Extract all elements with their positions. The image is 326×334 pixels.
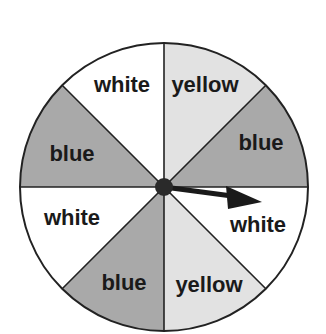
spinner: yellow blue white yellow blue white blue… (0, 0, 326, 334)
label-white-top: white (93, 72, 150, 97)
label-white-right: white (229, 212, 286, 237)
label-blue-left: blue (49, 141, 94, 166)
spinner-hub (155, 178, 173, 196)
label-white-left: white (43, 205, 100, 230)
label-yellow-bottom: yellow (175, 272, 243, 297)
label-yellow-top: yellow (171, 72, 239, 97)
label-blue-bottom: blue (101, 270, 146, 295)
label-blue-right: blue (238, 130, 283, 155)
